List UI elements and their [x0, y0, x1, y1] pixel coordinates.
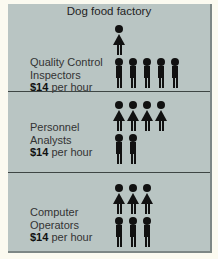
label-line1: Personnel: [30, 121, 92, 134]
female-figure-icon: [113, 101, 125, 131]
factory-panel: Dog food factory Quality Control Inspect…: [8, 4, 212, 253]
female-figure-icon: [155, 101, 167, 131]
label-line2: Analysts: [30, 134, 92, 147]
section-divider: [8, 172, 210, 173]
male-figure-icon: [169, 58, 181, 88]
label-line1: Quality Control: [30, 56, 103, 69]
female-figure-icon: [141, 101, 153, 131]
male-figure-icon: [113, 134, 125, 164]
female-figure-icon: [127, 184, 139, 214]
male-figure-icon: [113, 58, 125, 88]
male-figure-icon: [155, 58, 167, 88]
male-figure-icon: [127, 217, 139, 247]
female-figure-icon: [113, 184, 125, 214]
group-label-qc: Quality Control Inspectors $14 per hour: [30, 56, 103, 94]
wage-unit: per hour: [51, 146, 92, 158]
wage-unit: per hour: [51, 231, 92, 243]
group-label-computer: Computer Operators $14 per hour: [30, 206, 92, 244]
label-line2: Operators: [30, 219, 92, 232]
wage-value: $14: [30, 146, 48, 158]
male-figure-icon: [141, 217, 153, 247]
label-line1: Computer: [30, 206, 92, 219]
male-figure-icon: [141, 58, 153, 88]
wage-value: $14: [30, 231, 48, 243]
male-figure-icon: [127, 58, 139, 88]
female-figure-icon: [113, 25, 125, 55]
male-figure-icon: [113, 217, 125, 247]
female-figure-icon: [127, 101, 139, 131]
female-figure-icon: [141, 184, 153, 214]
male-figure-icon: [127, 134, 139, 164]
label-line2: Inspectors: [30, 69, 103, 82]
section-divider: [8, 91, 210, 92]
diagram-title: Dog food factory: [8, 5, 210, 17]
group-label-personnel: Personnel Analysts $14 per hour: [30, 121, 92, 159]
